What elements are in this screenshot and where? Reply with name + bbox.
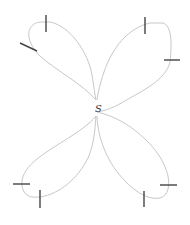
petal-upper-left [20, 15, 96, 100]
petal-upper-left-curve [29, 22, 96, 100]
center-label: S [95, 103, 102, 114]
petal-lower-left [13, 116, 96, 208]
four-petal-diagram: S [0, 0, 190, 225]
petal-lower-right-curve [97, 112, 169, 198]
petal-upper-right-curve [97, 23, 171, 112]
petal-upper-right [97, 17, 180, 112]
tick-upper-left-angled [20, 43, 37, 51]
petal-lower-right [97, 112, 177, 207]
petal-lower-left-curve [22, 116, 96, 197]
